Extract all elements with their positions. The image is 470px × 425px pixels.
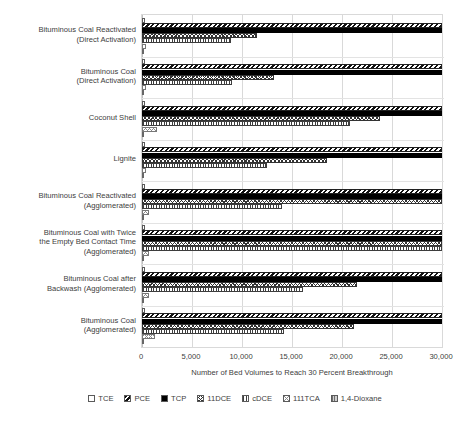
bar-1-4-dioxane	[142, 215, 144, 220]
x-tick-label: 5,000	[167, 352, 215, 361]
category-label-line: Lignite	[0, 154, 136, 164]
legend-label: 111TCA	[293, 394, 320, 403]
legend-swatch-icon	[283, 395, 290, 402]
legend-swatch-icon	[88, 395, 95, 402]
category-label: Bituminous Coal(Direct Activation)	[0, 67, 136, 86]
bar-cdce	[142, 121, 350, 126]
bar-chart: Bituminous Coal Reactivated(Direct Activ…	[0, 0, 470, 425]
bar-1-4-dioxane	[142, 49, 144, 54]
bar-1-4-dioxane	[142, 173, 144, 178]
category-label-line: Bituminous Coal	[0, 67, 136, 77]
bar-1-4-dioxane	[142, 339, 144, 344]
bar-1-4-dioxane	[142, 90, 144, 95]
category-separator	[142, 57, 444, 58]
legend-item[interactable]: 111TCA	[283, 394, 320, 403]
bar-cdce	[142, 38, 231, 43]
legend-item[interactable]: 1,4-Dioxane	[331, 394, 382, 403]
plot-area	[141, 14, 443, 348]
bar-cdce	[142, 246, 442, 251]
category-label-line: the Empty Bed Contact Time	[0, 237, 136, 247]
category-separator	[142, 264, 444, 265]
legend-item[interactable]: cDCE	[242, 394, 272, 403]
category-label-line: (Direct Activation)	[0, 35, 136, 45]
legend-swatch-icon	[242, 395, 249, 402]
x-tick-label: 20,000	[317, 352, 365, 361]
legend-item[interactable]: TCE	[88, 394, 113, 403]
category-separator	[142, 140, 444, 141]
x-tick-label: 0	[117, 352, 165, 361]
category-label: Bituminous Coal Reactivated(Direct Activ…	[0, 25, 136, 44]
category-separator	[142, 98, 444, 99]
category-label: Bituminous Coal Reactivated(Agglomerated…	[0, 191, 136, 210]
legend-item[interactable]: 11DCE	[197, 394, 231, 403]
legend-label: 11DCE	[207, 394, 231, 403]
bar-1-4-dioxane	[142, 298, 144, 303]
bar-cdce	[142, 80, 232, 85]
category-label: Lignite	[0, 154, 136, 164]
category-label: Coconut Shell	[0, 113, 136, 123]
legend-label: PCE	[134, 394, 150, 403]
category-label-line: Coconut Shell	[0, 113, 136, 123]
bar-cdce	[142, 287, 303, 292]
category-label-line: Bituminous Coal Reactivated	[0, 25, 136, 35]
category-label-line: (Agglomerated)	[0, 201, 136, 211]
bar-cdce	[142, 204, 282, 209]
legend-item[interactable]: TCP	[161, 394, 186, 403]
bar-111tca	[142, 127, 157, 132]
x-tick-label: 15,000	[267, 352, 315, 361]
x-axis-title: Number of Bed Volumes to Reach 30 Percen…	[141, 368, 443, 377]
bar-cdce	[142, 163, 267, 168]
x-tick-label: 10,000	[217, 352, 265, 361]
category-label: Bituminous Coal afterBackwash (Agglomera…	[0, 274, 136, 293]
chart-legend: TCEPCETCP11DCEcDCE111TCA1,4-Dioxane	[0, 394, 470, 403]
legend-item[interactable]: PCE	[124, 394, 150, 403]
category-separator	[142, 223, 444, 224]
bar-1-4-dioxane	[142, 132, 144, 137]
category-label-line: Bituminous Coal after	[0, 274, 136, 284]
category-separator	[142, 181, 444, 182]
category-label-line: (Agglomerated)	[0, 325, 136, 335]
category-label-line: (Agglomerated)	[0, 247, 136, 257]
category-separator	[142, 306, 444, 307]
x-tick-label: 30,000	[417, 352, 465, 361]
legend-swatch-icon	[161, 395, 168, 402]
bar-cdce	[142, 329, 284, 334]
legend-label: TCE	[98, 394, 113, 403]
legend-label: TCP	[171, 394, 186, 403]
bar-1-4-dioxane	[142, 256, 144, 261]
x-tick-label: 25,000	[367, 352, 415, 361]
legend-swatch-icon	[197, 395, 204, 402]
category-label: Bituminous Coal with Twicethe Empty Bed …	[0, 228, 136, 257]
category-label-line: Bituminous Coal with Twice	[0, 228, 136, 238]
legend-swatch-icon	[124, 395, 131, 402]
category-label: Bituminous Coal(Agglomerated)	[0, 316, 136, 335]
category-label-line: (Direct Activation)	[0, 76, 136, 86]
legend-label: 1,4-Dioxane	[341, 394, 382, 403]
category-label-line: Bituminous Coal	[0, 316, 136, 326]
legend-label: cDCE	[252, 394, 272, 403]
legend-swatch-icon	[331, 395, 338, 402]
category-label-line: Bituminous Coal Reactivated	[0, 191, 136, 201]
category-label-line: Backwash (Agglomerated)	[0, 284, 136, 294]
